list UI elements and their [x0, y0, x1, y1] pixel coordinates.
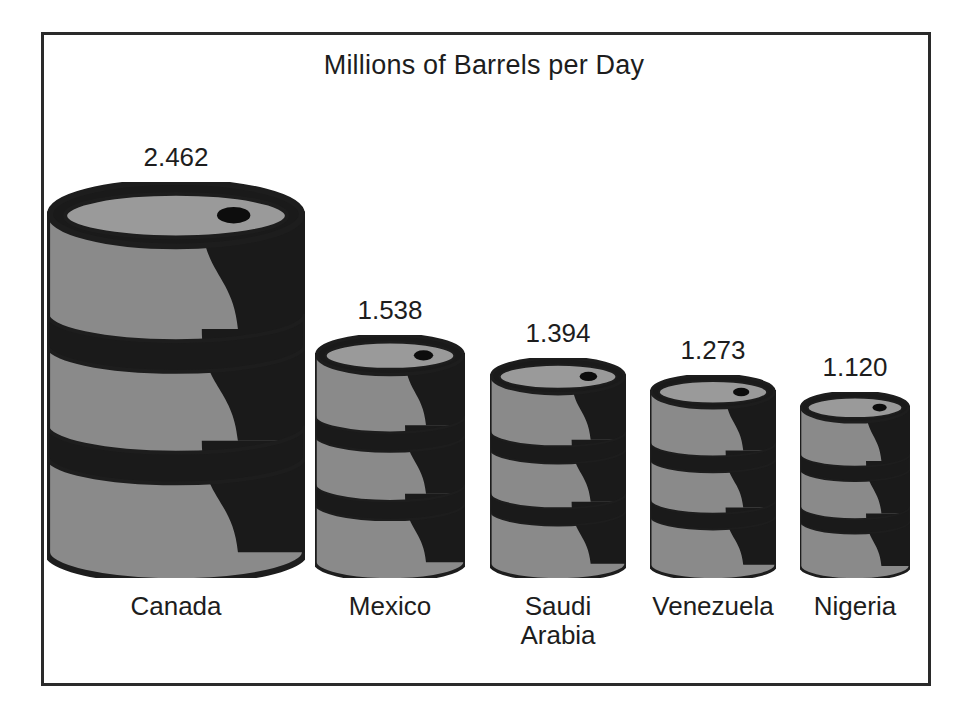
- category-label: Mexico: [349, 592, 431, 621]
- value-label: 1.538: [315, 295, 465, 326]
- barrel-lid: [659, 381, 767, 403]
- category-label: Nigeria: [814, 592, 896, 621]
- barrel-bung-hole: [733, 388, 749, 396]
- barrel-pictogram: [47, 182, 305, 578]
- barrel-bung-hole: [217, 207, 250, 224]
- barrel-graphic: [650, 375, 776, 578]
- category-label-line1: Canada: [130, 592, 221, 621]
- barrel-graphic: [315, 335, 465, 578]
- category-label-line1: Nigeria: [814, 592, 896, 621]
- barrel-bar-venezuela: 1.273 Venezuela: [650, 375, 776, 578]
- chart-canvas: Millions of Barrels per Day 2.462 Canada…: [0, 0, 968, 719]
- barrel-pictogram: [650, 375, 776, 578]
- barrel-lid: [326, 342, 455, 369]
- value-label: 1.120: [800, 352, 910, 383]
- barrel-bar-canada: 2.462 Canada: [47, 182, 305, 578]
- category-label: SaudiArabia: [520, 592, 595, 650]
- barrel-graphic: [47, 182, 305, 578]
- barrel-lid: [65, 194, 287, 238]
- barrel-bar-saudi-arabia: 1.394 SaudiArabia: [490, 358, 626, 578]
- barrel-bung-hole: [414, 350, 433, 360]
- barrel-bung-hole: [580, 372, 598, 381]
- category-label: Venezuela: [652, 592, 773, 621]
- barrel-bar-nigeria: 1.120 Nigeria: [800, 392, 910, 578]
- plot-area: 2.462 Canada1.538: [41, 32, 931, 686]
- category-label: Canada: [130, 592, 221, 621]
- barrel-bar-mexico: 1.538 Mexico: [315, 335, 465, 578]
- barrel-lid: [500, 365, 617, 389]
- barrel-lid: [808, 398, 903, 418]
- barrel-graphic: [800, 392, 910, 578]
- value-label: 2.462: [47, 142, 305, 173]
- barrel-graphic: [490, 358, 626, 578]
- barrel-pictogram: [800, 392, 910, 578]
- category-label-line1: Mexico: [349, 592, 431, 621]
- value-label: 1.394: [490, 318, 626, 349]
- category-label-line2: Arabia: [520, 621, 595, 650]
- barrel-pictogram: [490, 358, 626, 578]
- category-label-line1: Saudi: [520, 592, 595, 621]
- barrel-pictogram: [315, 335, 465, 578]
- value-label: 1.273: [650, 335, 776, 366]
- category-label-line1: Venezuela: [652, 592, 773, 621]
- barrel-bung-hole: [873, 404, 887, 412]
